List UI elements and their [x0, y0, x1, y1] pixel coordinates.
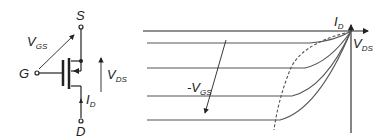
mosfet-diagram: S G D VGS VDS ID ID VDS -VGS — [0, 0, 382, 140]
vgs-label: VGS — [27, 34, 48, 51]
curve-4 — [147, 31, 351, 120]
drain-label: D — [76, 124, 85, 139]
id-label: ID — [86, 92, 96, 109]
curve-2 — [147, 31, 351, 68]
channel-arrow-icon — [73, 68, 79, 74]
y-axis-label: ID — [334, 14, 344, 31]
id-arrow-icon — [79, 98, 83, 103]
gate-label: G — [19, 66, 29, 81]
curve-3 — [147, 31, 351, 96]
vds-label: VDS — [107, 67, 127, 84]
drain-terminal — [79, 119, 83, 123]
x-axis-label: VDS — [353, 36, 373, 53]
source-terminal — [79, 25, 83, 29]
vgs-direction-arrow-icon — [205, 40, 226, 113]
source-label: S — [76, 8, 85, 23]
vgs-param-label: -VGS — [187, 80, 212, 97]
output-characteristics-plot — [143, 25, 368, 133]
gate-terminal — [35, 71, 39, 75]
saturation-boundary — [274, 33, 345, 130]
